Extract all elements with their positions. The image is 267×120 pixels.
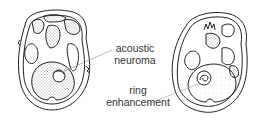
left-skull-section [18, 10, 90, 110]
acoustic-neuroma-label: acoustic neuroma [108, 42, 162, 66]
right-skull-section [172, 13, 247, 113]
ring-enhancement-label: ring enhancement [98, 84, 178, 108]
ring-enhancement-label-line1: ring [98, 84, 178, 96]
ring-enhancement-label-line2: enhancement [98, 96, 178, 108]
acoustic-neuroma-label-line2: neuroma [108, 54, 162, 66]
acoustic-neuroma-label-line1: acoustic [108, 42, 162, 54]
